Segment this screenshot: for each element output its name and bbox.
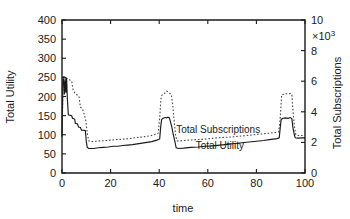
y2-tick-label: 4 bbox=[311, 106, 317, 118]
plot-background bbox=[62, 20, 305, 173]
dual-axis-line-chart: 020406080100 050100150200250300350400 02… bbox=[0, 0, 350, 219]
y-tick-label: 200 bbox=[38, 91, 56, 103]
y2-tick-label: 2 bbox=[311, 136, 317, 148]
x-axis-tick-labels: 020406080100 bbox=[59, 177, 314, 189]
y-tick-label: 100 bbox=[38, 129, 56, 141]
x-tick-label: 0 bbox=[59, 177, 65, 189]
y-axis-title: Total Utility bbox=[4, 70, 16, 124]
y2-axis-title: Total Subscriptions bbox=[331, 56, 343, 149]
y2-tick-label: 8 bbox=[311, 45, 317, 57]
y2-tick-label: 6 bbox=[311, 75, 317, 87]
y2-tick-label: 0 bbox=[311, 167, 317, 179]
x-axis-title: time bbox=[173, 202, 194, 214]
y-tick-label: 0 bbox=[50, 167, 56, 179]
y2-axis-multiplier: ×103 bbox=[312, 29, 336, 42]
series-label-total-subscriptions: Total Subscriptions bbox=[176, 124, 260, 135]
y-tick-label: 300 bbox=[38, 52, 56, 64]
y-axis-tick-labels: 050100150200250300350400 bbox=[38, 14, 56, 179]
y-tick-label: 50 bbox=[44, 148, 56, 160]
series-label-total-utility: Total Utility bbox=[196, 140, 244, 151]
y-tick-label: 150 bbox=[38, 110, 56, 122]
x-tick-label: 80 bbox=[250, 177, 262, 189]
y-tick-label: 350 bbox=[38, 33, 56, 45]
y-tick-label: 400 bbox=[38, 14, 56, 26]
plot-frame bbox=[62, 20, 305, 173]
chart-container: 020406080100 050100150200250300350400 02… bbox=[0, 0, 350, 219]
x-tick-label: 60 bbox=[202, 177, 214, 189]
y2-tick-label: 10 bbox=[311, 14, 323, 26]
x-tick-label: 20 bbox=[104, 177, 116, 189]
x-tick-label: 40 bbox=[153, 177, 165, 189]
y-tick-label: 250 bbox=[38, 71, 56, 83]
